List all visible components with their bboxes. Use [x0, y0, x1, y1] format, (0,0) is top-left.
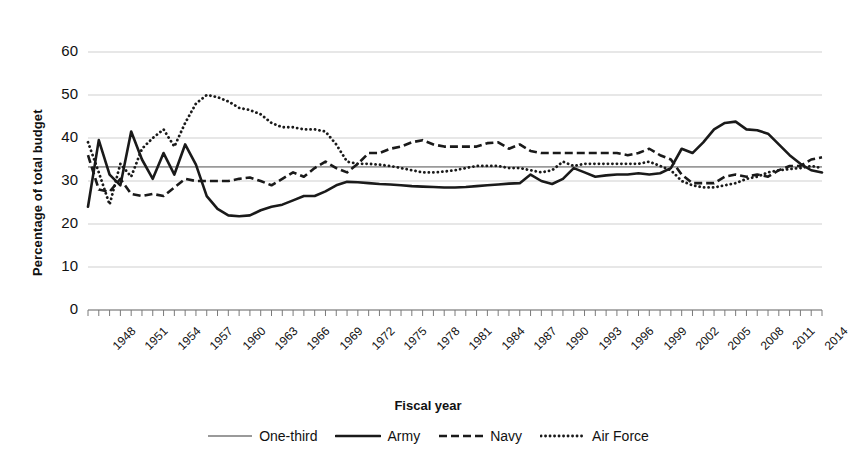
- y-axis-tick-label: 0: [38, 300, 78, 317]
- legend-item-army[interactable]: Army: [335, 428, 420, 444]
- x-axis-title: Fiscal year: [0, 398, 856, 413]
- y-axis-tick-label: 10: [38, 257, 78, 274]
- y-axis-tick-label: 40: [38, 128, 78, 145]
- y-axis-tick-label: 20: [38, 214, 78, 231]
- legend-label: Air Force: [592, 428, 649, 444]
- legend-label: Navy: [490, 428, 522, 444]
- y-axis-tick-label: 50: [38, 85, 78, 102]
- legend-label: One-third: [259, 428, 317, 444]
- legend-label: Army: [387, 428, 420, 444]
- y-axis-tick-label: 30: [38, 171, 78, 188]
- y-axis-tick-label: 60: [38, 42, 78, 59]
- legend-item-navy[interactable]: Navy: [438, 428, 522, 444]
- chart-container: Percentage of total budget 0102030405060…: [0, 0, 856, 476]
- legend-item-air-force[interactable]: Air Force: [540, 428, 649, 444]
- legend-swatch-solid-thin-gray: [207, 429, 253, 443]
- legend-swatch-solid-thick-black: [335, 429, 381, 443]
- chart-legend: One-thirdArmyNavyAir Force: [0, 428, 856, 444]
- legend-swatch-dashed-black: [438, 429, 484, 443]
- legend-item-one-third[interactable]: One-third: [207, 428, 317, 444]
- legend-swatch-dotted-black: [540, 429, 586, 443]
